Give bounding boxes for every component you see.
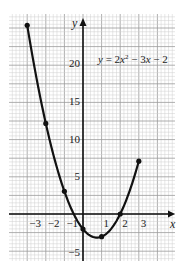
y-tick-label: −5 [68, 246, 80, 258]
data-point [25, 23, 30, 28]
y-tick-label: 5 [75, 170, 81, 182]
x-tick-label: −2 [48, 217, 60, 229]
y-tick-label: 10 [69, 133, 81, 145]
data-point [136, 159, 141, 164]
equation-label: y = 2x2 − 3x − 2 [97, 53, 168, 65]
y-tick-label: 20 [69, 57, 81, 69]
parabola-chart: x y −3−2−1123 2015105−5 y = 2x2 − 3x − 2 [0, 0, 186, 271]
background [0, 0, 186, 271]
x-tick-label: 1 [104, 217, 110, 229]
data-point [80, 227, 85, 232]
y-tick-label: 15 [69, 95, 81, 107]
data-point [43, 121, 48, 126]
data-point [99, 234, 104, 239]
equation-eq: = 2 [103, 53, 120, 65]
data-point [118, 211, 123, 216]
x-tick-label: 3 [141, 217, 147, 229]
equation-tail: − 2 [151, 53, 168, 65]
x-tick-label: −3 [29, 217, 41, 229]
x-axis-label: x [169, 217, 176, 231]
data-point [62, 189, 67, 194]
x-tick-label: 2 [122, 217, 128, 229]
equation-mid: − 3 [129, 53, 147, 65]
y-axis-label: y [71, 16, 78, 30]
